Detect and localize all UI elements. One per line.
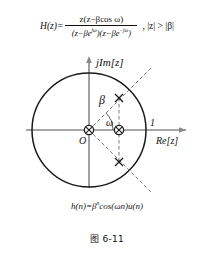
zero-marker-real <box>114 125 123 134</box>
formula-denominator: (z−βejω)(z−βe−jω) <box>69 26 134 38</box>
imaginary-axis <box>86 56 92 188</box>
denominator-part-left: (z−βe <box>72 28 92 38</box>
figure-caption: 图 6-11 <box>0 232 214 245</box>
radius-line-lower <box>89 130 152 193</box>
formula-lhs: H(z)= <box>40 21 63 31</box>
imaginary-axis-label: jIm[z] <box>94 56 124 68</box>
zero-marker-origin <box>84 125 93 134</box>
angle-label-omega: ω <box>106 117 113 128</box>
radius-label-beta: β <box>98 93 105 107</box>
denominator-part-mid: )(z−βe <box>97 28 120 38</box>
formula-numerator: z(z−βcos ω) <box>76 14 126 25</box>
impulse-response-formula: h(n)=βncos(ωn)u(n) <box>0 200 214 211</box>
pole-zero-diagram: jIm[z] Re[z] O 1 β ω <box>0 52 214 200</box>
figure-page: H(z)= z(z−βcos ω) (z−βejω)(z−βe−jω) , |z… <box>0 0 214 259</box>
denominator-part-right: ) <box>128 28 131 38</box>
region-of-convergence: , |z| > |β| <box>142 21 174 31</box>
real-axis <box>26 127 186 133</box>
transfer-function-formula: H(z)= z(z−βcos ω) (z−βejω)(z−βe−jω) , |z… <box>0 14 214 38</box>
origin-label: O <box>79 135 86 146</box>
real-axis-label: Re[z] <box>155 135 178 146</box>
impulse-response-tail: cos(ωn)u(n) <box>99 201 143 211</box>
impulse-response-head: h(n)=β <box>71 201 97 211</box>
formula-fraction: z(z−βcos ω) (z−βejω)(z−βe−jω) <box>65 14 137 38</box>
denominator-exponent-2: −jω <box>120 27 129 33</box>
unit-mark-label: 1 <box>150 117 155 128</box>
